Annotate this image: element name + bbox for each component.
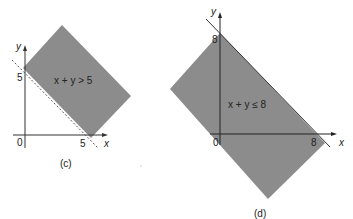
panel-d: y x 8 0 8 x + y ≤ 8 (d) bbox=[170, 6, 345, 219]
y-axis-label-d: y bbox=[210, 6, 217, 17]
y-axis-arrow-c bbox=[23, 45, 27, 51]
x-axis-arrow-d bbox=[331, 132, 337, 136]
y-axis-label-c: y bbox=[15, 41, 22, 52]
y-intercept-label-d: 8 bbox=[212, 34, 218, 45]
caption-c: (c) bbox=[60, 158, 72, 169]
inequality-graphs: y x 5 0 5 x + y > 5 (c) y x 8 0 8 x + y … bbox=[0, 0, 353, 219]
y-intercept-label-c: 5 bbox=[17, 72, 23, 83]
x-intercept-label-c: 5 bbox=[80, 138, 86, 149]
origin-label-c: 0 bbox=[17, 137, 23, 148]
panel-c: y x 5 0 5 x + y > 5 (c) bbox=[12, 25, 131, 169]
origin-label-d: 0 bbox=[213, 137, 219, 148]
x-axis-arrow-c bbox=[102, 133, 108, 137]
x-axis-label-d: x bbox=[338, 137, 345, 148]
caption-d: (d) bbox=[254, 208, 266, 219]
shaded-region-d bbox=[170, 33, 325, 199]
inequality-label-c: x + y > 5 bbox=[54, 75, 93, 86]
inequality-label-d: x + y ≤ 8 bbox=[228, 99, 266, 110]
speck bbox=[140, 165, 141, 166]
x-axis-label-c: x bbox=[103, 138, 110, 149]
x-intercept-label-d: 8 bbox=[311, 137, 317, 148]
y-axis-arrow-d bbox=[218, 12, 222, 18]
